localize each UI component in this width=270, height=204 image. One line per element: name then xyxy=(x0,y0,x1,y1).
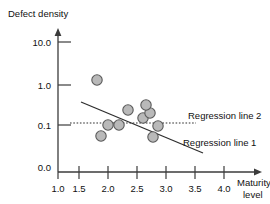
x-tick-label-3-0: 3.0 xyxy=(159,183,172,194)
x-tick-label-4-0: 4.0 xyxy=(217,183,230,194)
axes-group xyxy=(55,28,262,175)
regression-line-2-label: Regression line 2 xyxy=(188,110,261,121)
defect-density-chart: Defect density 10.0 1.0 0.1 0.0 xyxy=(0,0,270,204)
x-tick-label-2-0: 2.0 xyxy=(101,183,114,194)
scatter-points-group xyxy=(92,75,163,142)
x-tick-labels: 1.0 1.5 2.0 2.5 3.0 3.5 4.0 xyxy=(51,183,230,194)
data-point xyxy=(103,120,113,130)
y-axis-arrowhead xyxy=(55,28,62,36)
y-tick-label-0-0: 0.0 xyxy=(38,162,51,173)
regression-line-1-label: Regression line 1 xyxy=(183,137,256,148)
x-tick-label-2-5: 2.5 xyxy=(130,183,143,194)
data-point xyxy=(153,121,163,131)
y-tick-labels: 10.0 1.0 0.1 0.0 xyxy=(33,37,52,173)
x-axis-title-line-1: Maturity xyxy=(237,177,270,188)
y-tick-label-0-1: 0.1 xyxy=(38,120,51,131)
x-tick-label-3-5: 3.5 xyxy=(188,183,201,194)
data-point xyxy=(92,75,102,85)
data-point xyxy=(148,132,158,142)
y-ticks-group xyxy=(58,42,71,125)
data-point xyxy=(114,120,124,130)
y-axis-title: Defect density xyxy=(8,8,68,19)
x-axis-arrowhead xyxy=(254,169,262,176)
y-tick-label-10-0: 10.0 xyxy=(33,37,52,48)
x-tick-label-1-5: 1.5 xyxy=(72,183,85,194)
x-tick-label-1-0: 1.0 xyxy=(51,183,64,194)
data-point xyxy=(141,100,151,110)
y-tick-label-1-0: 1.0 xyxy=(38,80,51,91)
data-point xyxy=(96,131,106,141)
data-point xyxy=(123,105,133,115)
x-axis-title-line-2: level xyxy=(243,189,263,200)
chart-canvas: Defect density 10.0 1.0 0.1 0.0 xyxy=(0,0,270,204)
